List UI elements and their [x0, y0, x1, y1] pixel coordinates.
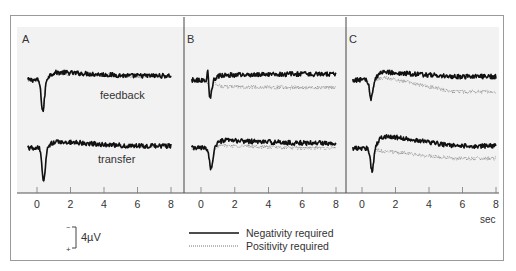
- x-tick-label: 4: [426, 198, 432, 210]
- panel-label-a: A: [22, 33, 30, 45]
- scale-bar: − + 4µV: [66, 224, 101, 254]
- x-tick-label: 2: [68, 198, 74, 210]
- x-tick-label: 8: [493, 198, 499, 210]
- x-tick-label: 6: [460, 198, 466, 210]
- x-tick-label: 6: [299, 198, 305, 210]
- x-tick-label: 0: [359, 198, 365, 210]
- x-tick-label: 0: [34, 198, 40, 210]
- x-tick-label: 2: [393, 198, 399, 210]
- legend-solid-label: Negativity required: [246, 227, 334, 239]
- x-tick-label: 8: [333, 198, 339, 210]
- x-tick-label: 4: [266, 198, 272, 210]
- scale-bar-minus: −: [66, 224, 70, 231]
- row-label-feedback: feedback: [100, 89, 145, 101]
- panel-label-b: B: [187, 33, 194, 45]
- erp-figure: 024680246802468 A B C feedback transfer …: [0, 0, 516, 271]
- x-tick-label: 6: [135, 198, 141, 210]
- x-tick-label: 8: [168, 198, 174, 210]
- scale-bar-plus: +: [66, 245, 71, 254]
- row-label-transfer: transfer: [98, 153, 136, 165]
- panel-label-c: C: [349, 33, 357, 45]
- x-axis-unit: sec: [480, 214, 496, 225]
- x-tick-label: 0: [198, 198, 204, 210]
- x-tick-label: 4: [101, 198, 107, 210]
- legend-dotted-label: Positivity required: [246, 240, 329, 252]
- x-tick-label: 2: [232, 198, 238, 210]
- scale-bar-value: 4µV: [81, 231, 101, 243]
- erp-chart: 024680246802468 A B C feedback transfer …: [0, 0, 516, 271]
- legend: Negativity required Positivity required: [189, 227, 334, 252]
- plot-area-background: [17, 27, 499, 193]
